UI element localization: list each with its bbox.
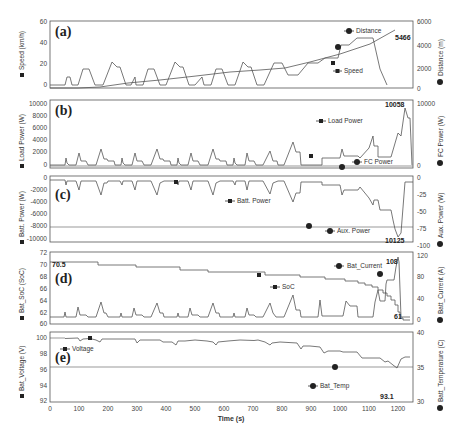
ytick: 72 — [40, 249, 48, 256]
legend-speed-icon — [336, 69, 340, 73]
ytick-right: 80 — [417, 273, 425, 280]
y-axis-label-right-c: Aux. Power (W) — [437, 192, 445, 238]
legend-bat-current-icon — [336, 263, 342, 269]
ytick: -8000 — [30, 222, 47, 229]
circle-marker-icon — [437, 79, 443, 85]
bat-temp-marker — [332, 364, 338, 370]
legend-voltage: Voltage — [72, 345, 94, 353]
ytick-right: 0 — [417, 162, 421, 169]
panel-label-a: (a) — [55, 24, 72, 40]
panel-e: (e) 100 98 96 94 92 40 35 30 Bat_Voltage… — [18, 329, 445, 411]
y-axis-label-right-d: Batt_Current (A) — [437, 267, 445, 314]
ytick: 96 — [40, 366, 48, 373]
ytick: 64 — [40, 297, 48, 304]
ytick-right: 30 — [417, 398, 425, 405]
square-marker-icon — [20, 316, 24, 320]
ytick: 66 — [40, 285, 48, 292]
ytick: -6000 — [30, 210, 47, 217]
ytick: 0 — [43, 81, 47, 88]
ytick: 4000 — [33, 136, 48, 143]
ytick-right: 4000 — [417, 42, 432, 49]
ytick-right: -25 — [417, 191, 427, 198]
xtick: 600 — [219, 405, 230, 412]
legend-speed: Speed — [344, 67, 363, 75]
legend-batt-power: Batt. Power — [237, 197, 271, 204]
legend-batt-power-icon — [228, 199, 232, 203]
panel-label-b: (b) — [55, 103, 72, 119]
x-axis-label: Time (s) — [218, 415, 245, 423]
legend-bat-temp: Bat_Temp — [320, 382, 350, 390]
annotation-108: 108 — [386, 258, 398, 265]
ytick: 60 — [40, 18, 48, 25]
ytick-right: 0 — [417, 174, 421, 181]
xtick: 1200 — [391, 405, 406, 412]
legend-fc-power-icon — [354, 159, 360, 165]
annotation-10058: 10058 — [385, 101, 405, 108]
y-axis-label-right-e: Batt_Temperature (C) — [437, 340, 445, 403]
square-marker-icon — [20, 394, 24, 398]
aux-power-marker — [306, 223, 312, 229]
annotation-70-5: 70.5 — [52, 261, 66, 268]
panel-label-c: (c) — [55, 187, 71, 203]
xtick: 400 — [161, 405, 172, 412]
ytick: 6000 — [33, 124, 48, 131]
annotation-61: 61 — [394, 313, 402, 320]
xtick: 1000 — [333, 405, 348, 412]
xtick: 0 — [48, 405, 52, 412]
y-axis-label-e: Bat_Voltage (V) — [18, 345, 26, 391]
legend-load-power: Load Power — [328, 117, 364, 124]
ytick: 98 — [40, 350, 48, 357]
y-axis-label-right-a: Distance (m) — [437, 39, 445, 76]
ytick: 100 — [36, 334, 47, 341]
soc-marker — [257, 273, 261, 277]
y-axis-label-a: Speed (km/h) — [18, 31, 26, 70]
voltage-marker — [88, 336, 92, 340]
y-axis-label-c: Batt. Power (W) — [18, 191, 26, 237]
ytick-right: 0 — [417, 316, 421, 323]
ytick-right: 6000 — [417, 18, 432, 25]
legend-aux-power: Aux. Power — [337, 227, 371, 234]
xtick: 500 — [190, 405, 201, 412]
batt-power-marker — [174, 180, 178, 184]
ytick: 70 — [40, 261, 48, 268]
ytick: 60 — [40, 320, 48, 327]
circle-marker-icon — [437, 405, 443, 411]
ytick-right: 0 — [417, 85, 421, 92]
ytick: 40 — [40, 39, 48, 46]
soc-line — [50, 262, 410, 320]
ytick: 94 — [40, 382, 48, 389]
xtick: 100 — [74, 405, 85, 412]
ytick: 0 — [43, 161, 47, 168]
ytick: 20 — [40, 60, 48, 67]
square-marker-icon — [20, 73, 24, 77]
annotation-93-1: 93.1 — [380, 393, 394, 400]
panel-b: (b) 10000 8000 6000 4000 2000 0 10000 0 … — [18, 100, 445, 170]
figure: (a) 60 40 20 0 6000 4000 2000 0 Speed (k… — [0, 0, 457, 437]
ytick: 62 — [40, 309, 48, 316]
square-marker-icon — [20, 240, 24, 244]
ytick: 0 — [43, 174, 47, 181]
y-axis-label-b: Load Power (W) — [18, 114, 26, 161]
legend-load-power-icon — [319, 119, 323, 123]
panel-label-d: (d) — [55, 271, 72, 287]
ytick: -4000 — [30, 198, 47, 205]
ytick: 10000 — [29, 100, 47, 107]
xtick: 900 — [306, 405, 317, 412]
ytick: 68 — [40, 273, 48, 280]
panel-a: (a) 60 40 20 0 6000 4000 2000 0 Speed (k… — [18, 18, 445, 92]
legend-fc-power: FC Power — [364, 158, 394, 165]
ytick-right: 40 — [417, 295, 425, 302]
ytick: 8000 — [33, 112, 48, 119]
legend-aux-power-icon — [327, 228, 333, 234]
bat-current-marker — [377, 271, 383, 277]
xtick: 300 — [132, 405, 143, 412]
distance-line — [50, 30, 395, 88]
xtick: 800 — [277, 405, 288, 412]
speed-marker — [331, 61, 335, 65]
ytick-right: 10000 — [417, 100, 435, 107]
panel-c: (c) 0 -2000 -4000 -6000 -8000 -10000 0 -… — [18, 174, 445, 249]
circle-marker-icon — [437, 317, 443, 323]
y-axis-label-d: Bat_SoC (SoC) — [18, 268, 26, 313]
ytick-right: 40 — [417, 329, 425, 336]
ytick-right: 35 — [417, 364, 425, 371]
